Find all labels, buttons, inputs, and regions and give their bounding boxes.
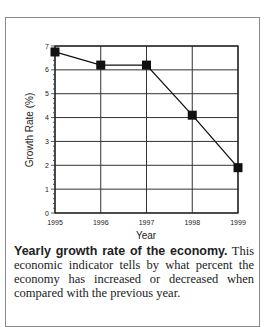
x-tick-label: 1996 (93, 219, 109, 226)
y-tick-label: 2 (45, 162, 49, 169)
y-tick-label: 4 (45, 114, 49, 121)
y-axis-label: Growth Rate (%) (24, 93, 35, 167)
data-point-1998 (188, 111, 197, 120)
data-point-1997 (142, 61, 151, 70)
y-tick-label: 0 (45, 210, 49, 217)
x-tick-label: 1997 (139, 219, 155, 226)
growth-rate-chart: 01234567 19951996199719981999 Year Growt… (0, 0, 273, 240)
data-point-1995 (51, 47, 60, 56)
y-tick-label: 7 (45, 43, 49, 50)
data-point-1996 (96, 61, 105, 70)
y-tick-label: 3 (45, 138, 49, 145)
figure-caption: Yearly growth rate of the economy. This … (14, 244, 254, 300)
x-tick-label: 1999 (230, 219, 246, 226)
x-axis-label: Year (136, 230, 157, 240)
caption-title: Yearly growth rate of the economy. (14, 244, 228, 258)
x-tick-label: 1995 (47, 219, 63, 226)
y-tick-label: 6 (45, 66, 49, 73)
y-tick-label: 5 (45, 90, 49, 97)
y-tick-label: 1 (45, 186, 49, 193)
data-point-1999 (234, 163, 243, 172)
x-tick-label: 1998 (184, 219, 200, 226)
